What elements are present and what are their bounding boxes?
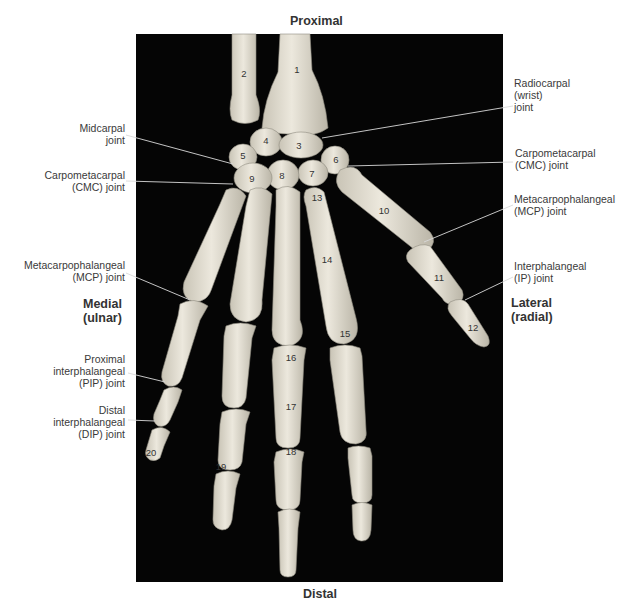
orientation-proximal: Proximal bbox=[290, 14, 343, 28]
leader-cmc-left bbox=[126, 181, 233, 184]
bone-number-10: 10 bbox=[379, 205, 390, 216]
label-mcp-joint-left: Metacarpophalangeal (MCP) joint bbox=[24, 259, 125, 283]
leader-ip bbox=[465, 277, 513, 300]
bone-number-2: 2 bbox=[241, 68, 246, 79]
label-radiocarpal-joint: Radiocarpal (wrist) joint bbox=[514, 77, 570, 113]
middle-finger-bones bbox=[272, 186, 306, 577]
label-cmc-joint-right: Carpometacarpal (CMC) joint bbox=[515, 147, 596, 171]
leader-mcp-right bbox=[424, 205, 513, 242]
ulna-bone bbox=[230, 34, 260, 124]
bone-number-12: 12 bbox=[468, 322, 479, 333]
index-finger-bones bbox=[304, 187, 372, 541]
bone-number-14: 14 bbox=[322, 254, 333, 265]
label-ip-joint: Interphalangeal (IP) joint bbox=[514, 260, 586, 284]
bone-number-20: 20 bbox=[146, 447, 157, 458]
leader-cmc-right bbox=[348, 162, 513, 166]
label-pip-joint: Proximal interphalangeal (PIP) joint bbox=[53, 353, 125, 389]
bone-number-17: 17 bbox=[286, 401, 297, 412]
bone-number-15: 15 bbox=[340, 328, 351, 339]
label-dip-joint: Distal interphalangeal (DIP) joint bbox=[53, 404, 125, 440]
bone-number-9: 9 bbox=[249, 173, 254, 184]
orientation-distal: Distal bbox=[303, 587, 337, 601]
bone-number-19: 19 bbox=[216, 461, 227, 472]
bone-number-3: 3 bbox=[296, 140, 301, 151]
label-cmc-joint-left: Carpometacarpal (CMC) joint bbox=[44, 169, 125, 193]
radius-bone bbox=[262, 34, 328, 135]
bone-number-7: 7 bbox=[309, 168, 314, 179]
bone-number-6: 6 bbox=[333, 154, 338, 165]
bone-number-8: 8 bbox=[279, 170, 284, 181]
bone-number-18: 18 bbox=[286, 446, 297, 457]
label-midcarpal-joint: Midcarpal joint bbox=[79, 122, 125, 146]
leader-radiocarpal bbox=[322, 106, 513, 138]
leader-dip bbox=[128, 420, 155, 421]
bone-number-1: 1 bbox=[294, 64, 299, 75]
leader-mcp-left bbox=[126, 273, 190, 300]
orientation-lateral: Lateral (radial) bbox=[511, 296, 553, 324]
bone-number-16: 16 bbox=[286, 352, 297, 363]
bone-number-11: 11 bbox=[434, 272, 444, 283]
orientation-medial: Medial (ulnar) bbox=[83, 297, 122, 325]
label-mcp-joint-right: Metacarpophalangeal (MCP) joint bbox=[514, 193, 615, 217]
bone-number-13: 13 bbox=[312, 192, 323, 203]
leader-pip bbox=[128, 373, 165, 382]
bone-number-4: 4 bbox=[263, 135, 268, 146]
carpal-bones bbox=[229, 128, 349, 193]
thumb-bones bbox=[336, 167, 489, 347]
bone-number-5: 5 bbox=[240, 150, 245, 161]
leader-midcarpal bbox=[126, 135, 233, 164]
